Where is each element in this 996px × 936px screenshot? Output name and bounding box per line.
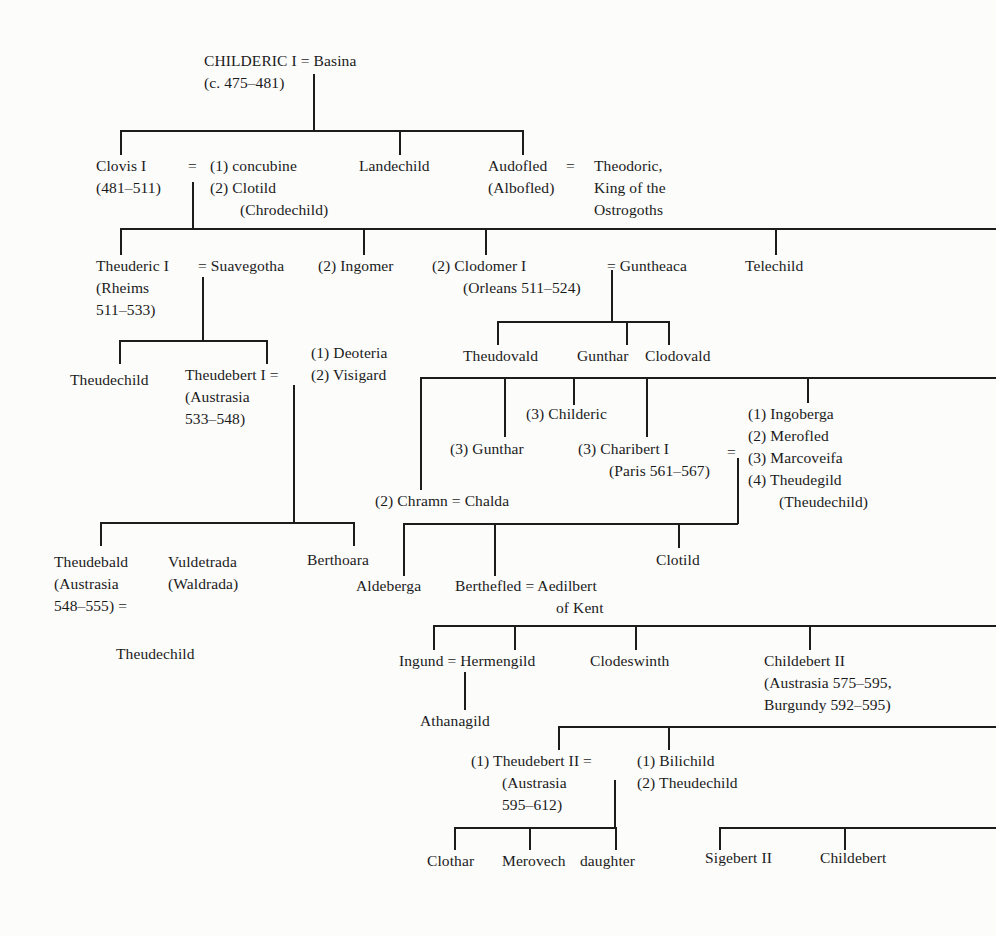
person-audofled: Audofled bbox=[488, 155, 547, 177]
spouse-theudechild: Theudechild bbox=[116, 643, 195, 665]
person-theudebert-ii: (1) Theudebert II = bbox=[471, 750, 592, 772]
reign-theuderic-i: 511–533) bbox=[96, 299, 156, 321]
person-gunthar-b: (3) Gunthar bbox=[450, 438, 524, 460]
person-theuderic-i: Theuderic I bbox=[96, 255, 169, 277]
reign-childeric-i: (c. 475–481) bbox=[204, 72, 284, 94]
person-ingund: Ingund = Hermengild bbox=[399, 650, 535, 672]
genealogy-tree: CHILDERIC I = Basina (c. 475–481) Clovis… bbox=[0, 0, 996, 936]
person-merovech: Merovech bbox=[502, 850, 566, 872]
person-theudechild: Theudechild bbox=[70, 369, 149, 391]
reign-theudebert-i: (Austrasia bbox=[185, 386, 250, 408]
reign-childebert-ii: (Austrasia 575–595, bbox=[764, 672, 892, 694]
person-daughter: daughter bbox=[580, 850, 635, 872]
person-ingomer: (2) Ingomer bbox=[318, 255, 394, 277]
spouse-merofled: (2) Merofled bbox=[748, 425, 829, 447]
spouse-clotild: (2) Clotild bbox=[210, 177, 276, 199]
person-theudovald: Theudovald bbox=[463, 345, 538, 367]
spouse-guntheaca: = Guntheaca bbox=[607, 255, 687, 277]
person-clothar: Clothar bbox=[427, 850, 474, 872]
spouse-marcoveifa: (3) Marcoveifa bbox=[748, 447, 843, 469]
person-landechild: Landechild bbox=[359, 155, 430, 177]
person-sigebert-ii: Sigebert II bbox=[705, 847, 772, 869]
spouse-theodoric: Theodoric, bbox=[594, 155, 663, 177]
person-telechild: Telechild bbox=[745, 255, 803, 277]
person-vuldetrada: Vuldetrada bbox=[168, 551, 237, 573]
person-childebert-ii: Childebert II bbox=[764, 650, 845, 672]
spouse-theodoric-title: King of the bbox=[594, 177, 666, 199]
person-berthoara: Berthoara bbox=[307, 549, 369, 571]
reign-charibert-i: (Paris 561–567) bbox=[609, 460, 710, 482]
person-clodeswinth: Clodeswinth bbox=[590, 650, 669, 672]
reign-clodomer-i: (Orleans 511–524) bbox=[463, 277, 581, 299]
spouse-suavegotha: = Suavegotha bbox=[198, 255, 284, 277]
spouse-theudechild-c: (2) Theudechild bbox=[637, 772, 738, 794]
person-aldeberga: Aldeberga bbox=[356, 575, 421, 597]
reign-childebert-ii: Burgundy 592–595) bbox=[764, 694, 891, 716]
person-theudebert-i: Theudebert I = bbox=[185, 364, 279, 386]
person-gunthar: Gunthar bbox=[577, 345, 629, 367]
spouse-aedilbert-title: of Kent bbox=[556, 597, 604, 619]
spouse-theudegild-alias: (Theudechild) bbox=[779, 491, 868, 513]
person-childebert: Childebert bbox=[820, 847, 886, 869]
reign-clovis-i: (481–511) bbox=[96, 177, 161, 199]
spouse-theodoric-title: Ostrogoths bbox=[594, 199, 663, 221]
person-chramn: (2) Chramn = Chalda bbox=[375, 490, 509, 512]
person-audofled-alias: (Albofled) bbox=[488, 177, 554, 199]
person-clovis-i: Clovis I bbox=[96, 155, 146, 177]
connector-lines bbox=[0, 0, 996, 936]
marriage-sign: = bbox=[727, 441, 736, 463]
person-vuldetrada-alias: (Waldrada) bbox=[168, 573, 238, 595]
person-athanagild: Athanagild bbox=[420, 710, 490, 732]
person-childeric-i: CHILDERIC I = Basina bbox=[204, 50, 356, 72]
spouse-visigard: (2) Visigard bbox=[311, 364, 386, 386]
spouse-ingoberga: (1) Ingoberga bbox=[748, 403, 834, 425]
reign-theudebald: 548–555) = bbox=[54, 595, 127, 617]
person-clotild: Clotild bbox=[656, 549, 700, 571]
person-theudebald: Theudebald bbox=[54, 551, 128, 573]
spouse-bilichild: (1) Bilichild bbox=[637, 750, 715, 772]
marriage-sign: = bbox=[566, 155, 575, 177]
spouse-theudegild: (4) Theudegild bbox=[748, 469, 842, 491]
spouse-clotild-alias: (Chrodechild) bbox=[240, 199, 328, 221]
reign-theudebert-ii: 595–612) bbox=[502, 794, 562, 816]
spouse-deoteria: (1) Deoteria bbox=[311, 342, 388, 364]
reign-theuderic-i: (Rheims bbox=[96, 277, 149, 299]
spouse-concubine: (1) concubine bbox=[210, 155, 297, 177]
person-childeric: (3) Childeric bbox=[526, 403, 607, 425]
reign-theudebald: (Austrasia bbox=[54, 573, 119, 595]
person-clodomer-i: (2) Clodomer I bbox=[432, 255, 526, 277]
reign-theudebert-ii: (Austrasia bbox=[502, 772, 567, 794]
person-berthefled: Berthefled = Aedilbert bbox=[455, 575, 597, 597]
person-clodovald: Clodovald bbox=[645, 345, 710, 367]
reign-theudebert-i: 533–548) bbox=[185, 408, 245, 430]
marriage-sign: = bbox=[188, 155, 197, 177]
person-charibert-i: (3) Charibert I bbox=[578, 438, 669, 460]
